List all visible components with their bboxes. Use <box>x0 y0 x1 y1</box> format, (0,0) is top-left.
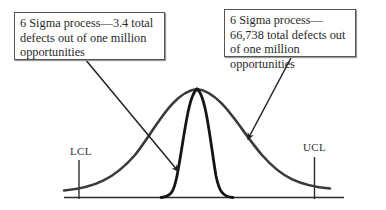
callout-box-narrow: 6 Sigma process—3.4 total defects out of… <box>14 12 165 60</box>
callout-box-wide: 6 Sigma process—66,738 total defects out… <box>224 9 356 57</box>
lcl-label: LCL <box>70 145 92 157</box>
wide-distribution-curve <box>64 89 330 191</box>
callout-text-narrow: 6 Sigma process—3.4 total defects out of… <box>20 16 153 59</box>
ucl-label: UCL <box>303 141 326 153</box>
